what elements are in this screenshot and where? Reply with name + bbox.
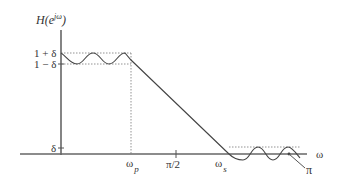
lower-passband-label: 1 − δ bbox=[34, 58, 56, 70]
y-axis-label: H(ejω) bbox=[35, 12, 66, 27]
stopband-delta-label: δ bbox=[51, 142, 56, 154]
pi-pointer bbox=[289, 154, 305, 168]
x-axis-label: ω bbox=[316, 148, 323, 160]
pi-label: π bbox=[306, 163, 312, 177]
passband-edge-label: ωp bbox=[126, 157, 139, 174]
response-curve bbox=[61, 53, 300, 160]
lowpass-response-diagram: H(ejω) 1 + δ 1 − δ δ ωp π/2 ωs π ω bbox=[0, 0, 337, 180]
stopband-edge-label: ωs bbox=[215, 157, 227, 174]
pi-half-label: π/2 bbox=[166, 158, 180, 170]
